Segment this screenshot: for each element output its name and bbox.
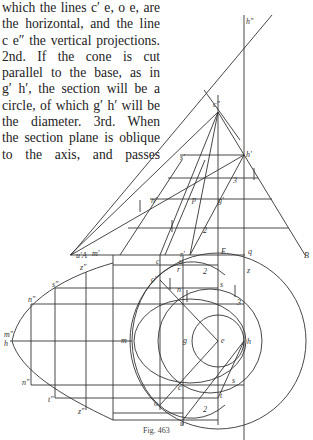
label-z: z	[246, 266, 251, 275]
label-m: m	[121, 336, 127, 345]
figure-caption: Fig. 463	[143, 426, 170, 435]
label-u-low: u	[180, 419, 184, 428]
label-B: B	[304, 251, 309, 260]
label-e: e	[221, 336, 225, 345]
label-2-low: 2	[203, 405, 207, 414]
cone-generator-left	[70, 112, 218, 255]
label-o: o	[154, 399, 158, 408]
label-s-low: s	[232, 376, 235, 385]
label-z-dd-low: z″	[77, 407, 85, 416]
label-c-dd: c″	[213, 100, 221, 109]
label-E: E	[220, 247, 226, 256]
label-g-d: g′	[218, 196, 224, 205]
label-A: A	[81, 251, 87, 260]
label-r: r	[177, 265, 181, 274]
label-m-d: m′	[92, 249, 100, 258]
label-n-d: n′	[151, 196, 157, 205]
label-h-left: h	[4, 339, 8, 348]
label-t-dd: t″	[48, 395, 54, 404]
label-3-top: 3	[232, 176, 237, 185]
label-n-dd-lower: n″	[22, 378, 30, 387]
projected-curve	[12, 263, 113, 420]
label-h-d: h′	[246, 150, 252, 159]
label-u-d: u′	[76, 251, 82, 260]
label-c: c	[156, 257, 160, 266]
label-z-dd: z″	[79, 263, 87, 272]
label-s-dd: s″	[52, 280, 59, 289]
cone-section-figure: h″ c″ h′ s′ 3 n′ p g′ 2 m′ r′ A u′ c E q…	[0, 0, 313, 440]
label-s: s	[220, 280, 223, 289]
label-c-low: c	[178, 383, 182, 392]
cone-generator-right	[218, 112, 305, 255]
label-2-top: 2	[203, 226, 207, 235]
label-p: p	[191, 195, 196, 204]
section-plane-line	[71, 15, 272, 255]
label-c-d-plan: c′	[151, 275, 157, 284]
label-h-dd: h″	[246, 17, 254, 26]
label-g: g	[183, 336, 187, 345]
label-h: h	[247, 337, 251, 346]
label-n-dd-upper: n″	[28, 295, 36, 304]
label-q: q	[248, 247, 252, 256]
label-t: t	[220, 391, 223, 400]
label-m-dd: m″	[4, 330, 14, 339]
label-s-d: s′	[180, 153, 185, 162]
label-n: n	[177, 285, 181, 294]
label-3-plan: 3	[236, 298, 241, 307]
label-2-plan: 2	[203, 267, 207, 276]
